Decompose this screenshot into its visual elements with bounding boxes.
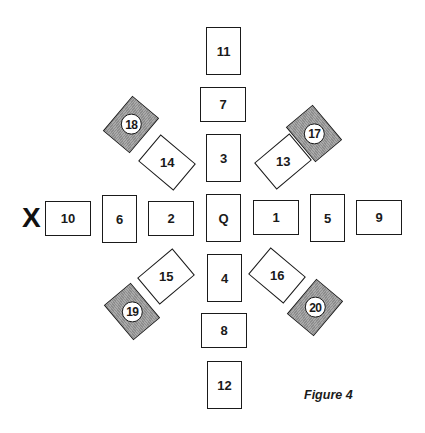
card-4: 4 [207,254,242,302]
card-3: 3 [206,134,241,182]
card-label: 1 [272,211,279,224]
card-label: 4 [221,272,228,285]
card-layout-diagram: 11 7 3 Q 4 8 12 X 10 6 2 1 5 9 14 13 15 [0,0,425,433]
card-11: 11 [206,27,241,75]
card-label: 2 [167,212,174,225]
card-12: 12 [207,361,242,409]
card-1: 1 [253,200,299,235]
card-queen-center: Q [206,194,241,242]
card-7: 7 [200,87,246,122]
card-14: 14 [138,134,196,190]
card-15: 15 [137,248,195,304]
card-label: 17 [308,128,320,140]
card-label: 8 [220,324,227,337]
card-label: 11 [217,45,231,58]
circle-badge: 17 [304,123,325,144]
figure-caption: Figure 4 [304,388,353,402]
card-label: 6 [116,213,123,226]
card-label: Q [218,212,228,225]
card-label: 19 [126,306,138,318]
card-label: 10 [61,212,75,225]
card-label: 12 [217,379,231,392]
card-9: 9 [356,200,402,235]
card-label: 3 [220,152,227,165]
card-label: 15 [159,270,173,283]
card-2: 2 [148,201,194,236]
card-6: 6 [102,195,137,243]
card-label: 5 [324,212,331,225]
card-5: 5 [310,194,345,242]
card-8: 8 [201,313,247,348]
card-label: 16 [270,269,284,282]
card-label: 13 [276,155,290,168]
circle-badge: 18 [121,114,142,135]
circle-badge: 20 [305,297,326,318]
card-label: 20 [309,302,321,314]
card-10: 10 [45,201,91,236]
card-16: 16 [248,247,306,303]
card-label: 18 [125,119,137,131]
card-label: 14 [160,156,174,169]
circle-badge: 19 [122,301,143,322]
card-label: 7 [219,98,226,111]
card-label: 9 [375,211,382,224]
x-marker: X [22,204,41,232]
